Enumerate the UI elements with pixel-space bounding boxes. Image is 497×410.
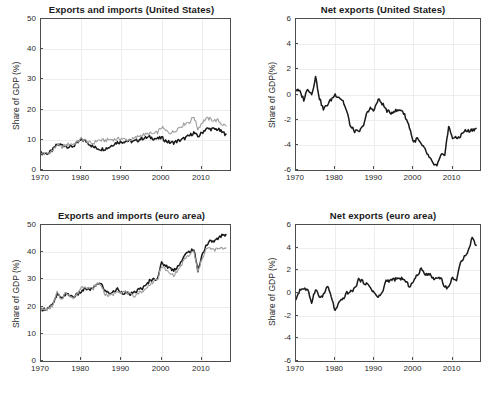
plot-area [40,224,231,362]
y-tick-label: 40 [27,44,36,53]
x-tick-mark [201,357,202,360]
y-tick-mark [295,247,298,248]
x-tick-mark [80,357,81,360]
plot-area [295,224,481,362]
panel-title: Net exports (United States) [283,4,483,15]
y-axis-label: Share of GDP (%) [11,62,21,130]
y-tick-mark [40,78,43,79]
x-tick-label: 1970 [286,364,304,373]
y-tick-mark [295,94,298,95]
x-tick-mark [373,166,374,169]
y-tick-label: 20 [27,104,36,113]
y-tick-mark [40,251,43,252]
y-axis-label: Share of GDP (%) [11,260,21,328]
plot-area [40,18,231,171]
y-tick-mark [295,18,298,19]
y-tick-mark [40,48,43,49]
series-line [41,247,226,311]
y-tick-label: 50 [27,14,36,23]
y-tick-mark [40,224,43,225]
y-tick-mark [40,169,43,170]
y-tick-mark [40,360,43,361]
y-tick-mark [295,292,298,293]
y-tick-label: 4 [287,242,291,251]
x-tick-label: 1970 [31,173,49,182]
x-tick-label: 1990 [112,364,130,373]
panel-net-exports-united-states: Net exports (United States) Share of GDP… [249,0,497,205]
x-tick-label: 2010 [192,364,210,373]
x-tick-mark [161,357,162,360]
y-tick-label: 2 [287,64,291,73]
x-tick-label: 2000 [404,364,422,373]
panel-net-exports-euro-area: Net exports (euro area) Share of GDP (%)… [249,205,497,410]
x-tick-label: 1970 [286,173,304,182]
panel-title: Exports and imports (euro area) [28,210,235,221]
y-tick-mark [40,306,43,307]
x-tick-label: 2010 [443,173,461,182]
x-tick-label: 1990 [364,364,382,373]
y-tick-mark [40,333,43,334]
x-tick-label: 1990 [112,173,130,182]
y-tick-mark [295,68,298,69]
y-tick-mark [295,337,298,338]
series-line [41,128,226,155]
x-tick-label: 1970 [31,364,49,373]
x-tick-label: 2000 [152,173,170,182]
series-layer [41,19,230,170]
x-tick-label: 1980 [325,364,343,373]
y-tick-mark [295,144,298,145]
panel-title: Exports and imports (United States) [28,4,235,15]
y-tick-label: -2 [284,114,291,123]
y-tick-mark [295,360,298,361]
y-tick-label: 10 [27,328,36,337]
series-layer [296,225,480,361]
x-tick-mark [452,357,453,360]
y-tick-label: 2 [287,265,291,274]
x-tick-mark [40,166,41,169]
y-tick-mark [40,18,43,19]
y-tick-label: 6 [287,220,291,229]
y-axis-label: Share of GDP(%) [267,62,277,128]
x-tick-mark [201,166,202,169]
x-tick-mark [412,357,413,360]
y-tick-label: 40 [27,247,36,256]
x-tick-mark [295,357,296,360]
x-tick-mark [295,166,296,169]
y-tick-label: 4 [287,39,291,48]
x-tick-mark [120,357,121,360]
y-tick-mark [295,315,298,316]
panel-exports-imports-united-states: Exports and imports (United States) Shar… [0,0,249,205]
y-tick-mark [295,169,298,170]
y-tick-label: 20 [27,301,36,310]
y-tick-mark [40,139,43,140]
y-tick-mark [295,269,298,270]
series-line [41,234,226,311]
series-line [296,76,476,165]
y-tick-mark [40,278,43,279]
plot-area [295,18,481,171]
x-tick-label: 1980 [325,173,343,182]
y-tick-label: 30 [27,74,36,83]
y-tick-label: 10 [27,134,36,143]
figure-canvas: Exports and imports (United States) Shar… [0,0,497,410]
x-tick-label: 2000 [152,364,170,373]
y-axis-label: Share of GDP (%) [267,258,277,326]
y-tick-mark [295,119,298,120]
x-tick-label: 1980 [71,173,89,182]
x-tick-label: 2000 [404,173,422,182]
x-tick-mark [40,357,41,360]
series-layer [296,19,480,170]
y-tick-label: -4 [284,139,291,148]
x-tick-mark [120,166,121,169]
y-tick-label: 30 [27,274,36,283]
y-tick-label: 6 [287,14,291,23]
x-tick-mark [334,166,335,169]
y-tick-mark [40,109,43,110]
y-tick-label: 50 [27,220,36,229]
x-tick-mark [373,357,374,360]
x-tick-mark [412,166,413,169]
x-tick-mark [80,166,81,169]
panel-exports-imports-euro-area: Exports and imports (euro area) Share of… [0,205,249,410]
x-tick-mark [452,166,453,169]
y-tick-label: 0 [287,288,291,297]
